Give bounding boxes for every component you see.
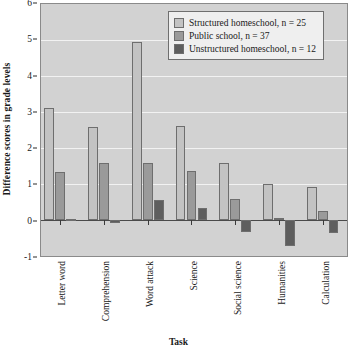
bar: [88, 127, 98, 220]
y-tick-mark: [33, 257, 37, 258]
bar: [285, 220, 295, 246]
bar: [143, 163, 153, 220]
bar-group: [85, 4, 129, 256]
x-tick-label: Calculation: [321, 261, 331, 305]
x-tick-mark: [323, 220, 324, 225]
bar: [176, 126, 186, 220]
x-tick-mark: [60, 220, 61, 225]
bar: [110, 220, 120, 223]
y-axis-title-text: Difference scores in grade levels: [2, 63, 12, 196]
y-tick-label: 4: [27, 71, 32, 81]
bar: [219, 163, 229, 220]
x-tick-label: Science: [189, 261, 199, 291]
x-tick-label: Letter word: [57, 261, 67, 306]
x-tick-label-cell: Calculation: [304, 259, 348, 337]
legend-item-unstructured-homeschool: Unstructured homeschool, n = 12: [174, 42, 316, 55]
bar: [66, 219, 76, 221]
x-tick-label-cell: Social science: [216, 259, 260, 337]
y-tick-mark: [33, 111, 37, 112]
legend-item-public-school: Public school, n = 37: [174, 29, 316, 42]
bar: [154, 200, 164, 220]
y-tick-mark: [33, 3, 37, 4]
x-tick-label: Social science: [233, 261, 243, 315]
bar: [318, 211, 328, 220]
x-tick-mark: [235, 220, 236, 225]
bar-chart: Difference scores in grade levels 654321…: [0, 0, 357, 354]
bar: [187, 171, 197, 220]
bar: [263, 184, 273, 220]
bar: [132, 42, 142, 220]
x-tick-mark: [191, 220, 192, 225]
y-tick-mark: [33, 39, 37, 40]
x-tick-label-cell: Letter word: [40, 259, 84, 337]
y-axis-ticks: 6543210-1: [16, 0, 37, 258]
x-tick-label-cell: Humanities: [260, 259, 304, 337]
y-tick-label: 6: [27, 0, 32, 8]
y-tick-label: 0: [27, 216, 32, 226]
x-tick-mark: [279, 220, 280, 225]
x-tick-label: Word attack: [145, 261, 155, 307]
legend-label: Unstructured homeschool, n = 12: [189, 44, 316, 54]
legend-label: Structured homeschool, n = 25: [189, 18, 306, 28]
y-tick-mark: [33, 148, 37, 149]
y-tick-label: 1: [27, 179, 32, 189]
bar: [55, 172, 65, 220]
x-axis-tick-labels: Letter wordComprehensionWord attackScien…: [40, 259, 348, 337]
x-tick-label: Humanities: [277, 261, 287, 305]
y-tick-label: 5: [27, 34, 32, 44]
bar: [44, 108, 54, 220]
x-tick-label-cell: Science: [172, 259, 216, 337]
bar: [329, 220, 339, 233]
x-tick-label-cell: Word attack: [128, 259, 172, 337]
bar: [241, 220, 251, 232]
x-axis-title: Task: [0, 337, 357, 347]
legend-item-structured-homeschool: Structured homeschool, n = 25: [174, 16, 316, 29]
y-axis-title: Difference scores in grade levels: [0, 0, 15, 258]
y-tick-mark: [33, 220, 37, 221]
bar: [230, 199, 240, 220]
bar-group: [41, 4, 85, 256]
y-tick-mark: [33, 184, 37, 185]
legend-swatch-icon: [174, 18, 184, 28]
bar-group: [128, 4, 172, 256]
y-tick-label: 3: [27, 107, 32, 117]
y-tick-label: 2: [27, 143, 32, 153]
bar: [198, 208, 208, 220]
x-tick-label-cell: Comprehension: [84, 259, 128, 337]
legend-label: Public school, n = 37: [189, 31, 270, 41]
y-tick-label: -1: [24, 252, 32, 262]
legend-swatch-icon: [174, 44, 184, 54]
bar: [99, 163, 109, 220]
legend-swatch-icon: [174, 31, 184, 41]
x-tick-mark: [148, 220, 149, 225]
bar: [307, 187, 317, 220]
x-tick-mark: [104, 220, 105, 225]
x-tick-label: Comprehension: [101, 261, 111, 321]
legend: Structured homeschool, n = 25 Public sch…: [168, 11, 324, 60]
y-tick-mark: [33, 75, 37, 76]
